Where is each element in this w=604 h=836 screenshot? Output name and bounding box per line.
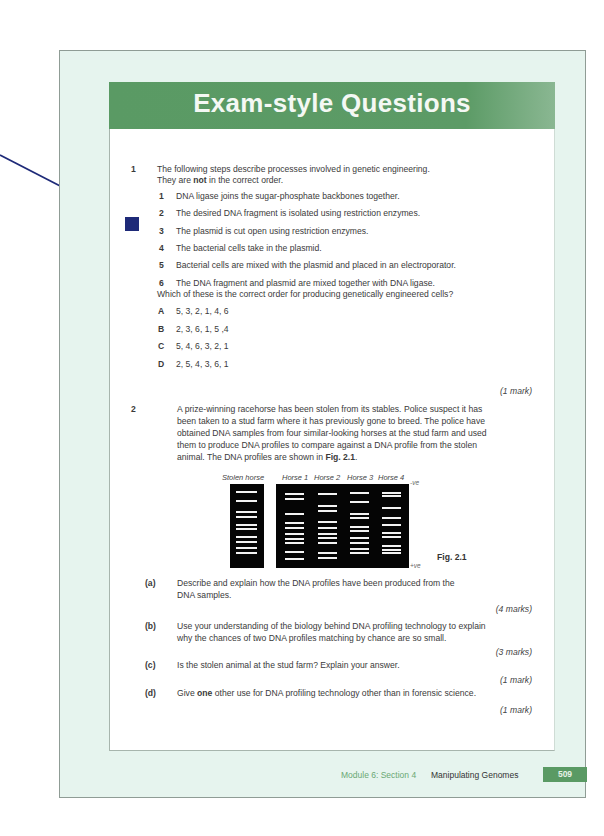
dna-band — [285, 493, 304, 495]
dna-band — [350, 552, 369, 554]
dna-band — [285, 533, 304, 535]
step-number: 3 — [159, 226, 164, 237]
dna-band — [318, 493, 337, 495]
step-number: 6 — [159, 278, 164, 289]
question-1-number: 1 — [131, 164, 136, 175]
lane-label: Horse 4 — [378, 473, 404, 482]
part-text: Use your understanding of the biology be… — [177, 621, 486, 632]
dna-band — [382, 532, 401, 534]
dna-band — [350, 513, 369, 515]
dna-band — [318, 533, 337, 535]
step-number: 2 — [159, 208, 164, 219]
part-label: (c) — [145, 660, 156, 671]
option-letter: D — [158, 359, 164, 370]
dna-band — [285, 513, 304, 515]
part-marks: (1 mark) — [500, 705, 532, 715]
dna-band — [350, 517, 369, 519]
dna-band — [382, 524, 401, 526]
step-text: DNA ligase joins the sugar-phosphate bac… — [176, 191, 400, 202]
part-text-pre: Give — [177, 688, 197, 698]
negative-pole-label: -ve — [410, 479, 419, 486]
question-1-marks: (1 mark) — [500, 386, 532, 396]
dna-band — [382, 495, 401, 497]
part-text: Is the stolen animal at the stud farm? E… — [177, 660, 400, 671]
step-text: Bacterial cells are mixed with the plasm… — [176, 260, 456, 271]
part-text: Give one other use for DNA profiling tec… — [177, 688, 476, 699]
dna-band — [350, 530, 369, 532]
figure-caption: Fig. 2.1 — [437, 552, 467, 562]
dna-band — [236, 541, 257, 543]
question-1-intro-line2: They are not in the correct order. — [157, 175, 283, 186]
option-text: 5, 3, 2, 1, 4, 6 — [176, 306, 229, 317]
dna-band — [318, 505, 337, 507]
option-letter: A — [158, 306, 164, 317]
dna-band — [318, 542, 337, 544]
dna-band — [285, 527, 304, 529]
dna-band — [285, 498, 304, 500]
part-text: DNA samples. — [177, 590, 231, 601]
step-number: 4 — [159, 243, 164, 254]
question-2-stem-line: A prize-winning racehorse has been stole… — [177, 404, 482, 415]
part-marks: (1 mark) — [500, 675, 532, 685]
footer-section-title: Manipulating Genomes — [431, 770, 518, 780]
question-1-intro: The following steps describe processes i… — [157, 164, 430, 175]
dna-band — [236, 511, 257, 513]
annotation-marker — [125, 217, 139, 231]
dna-band — [382, 536, 401, 538]
dna-band — [382, 492, 401, 494]
footer-module: Module 6: Section 4 — [341, 770, 416, 780]
page-title: Exam-style Questions — [109, 88, 555, 119]
step-text: The bacterial cells take in the plasmid. — [176, 243, 322, 254]
step-text: The DNA fragment and plasmid are mixed t… — [176, 278, 435, 289]
lane-label: Stolen horse — [222, 473, 264, 482]
part-marks: (4 marks) — [496, 604, 532, 614]
lane-label: Horse 2 — [314, 473, 340, 482]
dna-band — [350, 526, 369, 528]
dna-band — [236, 524, 257, 526]
question-1-prompt: Which of these is the correct order for … — [157, 289, 453, 300]
part-text-post: other use for DNA profiling technology o… — [212, 688, 476, 698]
question-2-stem-last: animal. The DNA profiles are shown in Fi… — [177, 452, 357, 463]
dna-band — [318, 527, 337, 529]
dna-band — [382, 545, 401, 547]
dna-band — [382, 517, 401, 519]
dna-band — [350, 542, 369, 544]
dna-band — [236, 516, 257, 518]
lane-label: Horse 1 — [282, 473, 308, 482]
part-marks: (3 marks) — [496, 647, 532, 657]
step-text: The plasmid is cut open using restrictio… — [176, 226, 369, 237]
dna-band — [318, 557, 337, 559]
option-letter: C — [158, 341, 164, 352]
part-text: Describe and explain how the DNA profile… — [177, 578, 455, 589]
part-text: why the chances of two DNA profiles matc… — [177, 633, 446, 644]
part-label: (d) — [145, 688, 156, 699]
dna-band — [236, 528, 257, 530]
part-text-bold: one — [197, 688, 212, 698]
dna-band — [236, 491, 257, 493]
page-header: Exam-style Questions — [109, 82, 555, 129]
dna-band — [285, 558, 304, 560]
step-number: 5 — [159, 260, 164, 271]
question-2-stem-line: been taken to a stud farm where it has p… — [177, 416, 485, 427]
part-label: (a) — [145, 578, 156, 589]
part-label: (b) — [145, 621, 156, 632]
dna-band — [285, 522, 304, 524]
dna-band — [350, 548, 369, 550]
dna-band — [382, 552, 401, 554]
dna-band — [285, 538, 304, 540]
lane-label: Horse 3 — [347, 473, 373, 482]
dna-band — [318, 552, 337, 554]
dna-band — [285, 551, 304, 553]
dna-band — [236, 552, 257, 554]
dna-band — [318, 521, 337, 523]
dna-band — [382, 507, 401, 509]
dna-band — [350, 537, 369, 539]
dna-band — [350, 492, 369, 494]
step-text: The desired DNA fragment is isolated usi… — [176, 208, 420, 219]
step-number: 1 — [159, 191, 164, 202]
dna-band — [236, 500, 257, 502]
page-number-badge: 509 — [543, 767, 587, 782]
dna-band — [382, 549, 401, 551]
option-text: 2, 3, 6, 1, 5 ,4 — [176, 324, 229, 335]
option-text: 2, 5, 4, 3, 6, 1 — [176, 359, 229, 370]
